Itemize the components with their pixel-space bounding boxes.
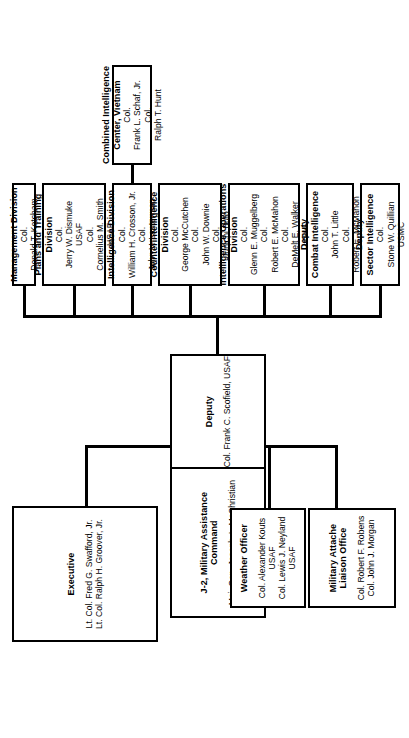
cic-title-line-1: Combined Intelligence	[101, 66, 112, 164]
cic-title-line-2: Center, Vietnam	[112, 80, 123, 149]
attache-name-1: Col. Robert F. Robens	[356, 516, 366, 601]
box-combined-intelligence-center-vietnam[interactable]: Combined IntelligenceCenter, VietnamCol.…	[112, 65, 152, 165]
deputy-sector-intelligence-title-line-1: Deputy	[354, 219, 365, 250]
intelligence-operations-division-rank-3: Col.	[280, 227, 290, 242]
attache-title-line-2: Liaison Office	[338, 528, 349, 589]
j2-deputy-name: Col. Frank C. Scofield, USAF	[222, 356, 232, 467]
counterintelligence-division-name-2: John W. Downie	[201, 203, 211, 265]
plans-and-training-division-rank-2: Col.	[85, 227, 95, 242]
executive-name-2: Lt. Col. Ralph H. Groover, Jr.	[94, 519, 104, 629]
deputy-combat-intelligence-name-1: John T. Little	[330, 210, 340, 258]
weather-name-1: Col. Alexander Kouts	[257, 518, 267, 598]
box-intelligence-division[interactable]: Intelligence DivisionCol.William H. Cros…	[112, 183, 152, 286]
intelligence-division-rank-1: Col.	[117, 227, 127, 242]
plans-and-training-division-name-1: Jerry W. Dismuke	[64, 201, 74, 268]
weather-service-2: USAF	[287, 547, 297, 570]
j2-title-line-2: Command	[209, 520, 220, 565]
connector-spine-intelops	[263, 285, 266, 318]
weather-name-2: Col. Lewis J. Neyland	[277, 517, 287, 600]
intelligence-division-title-line-1: Intelligence Division	[106, 190, 117, 279]
connector-spine-combat	[329, 285, 332, 318]
attache-name-2: Col. John J. Morgan	[366, 520, 376, 597]
box-deputy-combat-intelligence[interactable]: DeputyCombat IntelligenceCol.John T. Lit…	[306, 183, 354, 286]
intelligence-operations-division-title-line-1: Intelligence Operations	[218, 184, 229, 286]
org-chart: Executive Lt. Col. Fred G. Swafford, Jr.…	[0, 0, 409, 738]
connector-attache-horizontal	[335, 446, 338, 508]
deputy-combat-intelligence-rank-1: Col.	[320, 227, 330, 242]
weather-service-1: USAF	[267, 547, 277, 570]
management-division-title-line-1: Management Division	[9, 187, 20, 281]
intelligence-operations-division-rank-1: Col.	[239, 227, 249, 242]
deputy-combat-intelligence-title-line-2: Combat Intelligence	[310, 191, 321, 278]
intelligence-operations-division-name-1: Glenn E. Muggelberg	[249, 194, 259, 275]
counterintelligence-division-rank-1: Col.	[170, 227, 180, 242]
box-executive[interactable]: Executive Lt. Col. Fred G. Swafford, Jr.…	[12, 506, 158, 642]
chart-rotation-wrapper: Executive Lt. Col. Fred G. Swafford, Jr.…	[0, 0, 409, 738]
connector-exec-horizontal	[85, 446, 88, 506]
deputy-combat-intelligence-title-line-1: Deputy	[299, 219, 310, 250]
j2-deputy-label: Deputy	[204, 396, 215, 427]
connector-spine-management	[23, 285, 26, 318]
connector-spine-sector	[379, 285, 382, 318]
plans-and-training-division-service-1: USAF	[74, 223, 84, 246]
cic-rank-1: Col.	[122, 107, 132, 122]
box-counterintelligence-division[interactable]: CounterintelligenceDivisionCol.George Mc…	[158, 183, 222, 286]
counterintelligence-division-title-line-1: Counterintelligence	[149, 192, 160, 278]
plans-and-training-division-title-line-2: Division	[44, 217, 55, 253]
intelligence-division-rank-2: Col.	[137, 227, 147, 242]
intelligence-operations-division-rank-2: Col.	[259, 227, 269, 242]
counterintelligence-division-rank-2: Col.	[190, 227, 200, 242]
deputy-combat-intelligence-rank-2: Col.	[341, 227, 351, 242]
j2-title-line-1: J-2, Military Assistance	[199, 492, 210, 594]
intelligence-division-name-1: William H. Crosson, Jr.	[127, 191, 137, 278]
executive-name-1: Lt. Col. Fred G. Swafford, Jr.	[84, 520, 94, 629]
connector-root-to-spine	[216, 316, 219, 354]
cic-name-2: Ralph T. Hunt	[153, 89, 163, 141]
j2-deputy-compartment: Deputy Col. Frank C. Scofield, USAF	[172, 356, 264, 469]
attache-title-line-1: Military Attache	[328, 524, 339, 592]
connector-main-spine	[24, 315, 380, 318]
plans-and-training-division-title-line-1: Plans and Training	[33, 194, 44, 276]
deputy-sector-intelligence-rank-1: Col.	[375, 227, 385, 242]
deputy-sector-intelligence-name-1: Stone W. Quillian	[386, 202, 396, 268]
counterintelligence-division-name-1: George McCutchen	[180, 197, 190, 272]
deputy-sector-intelligence-service-1: USMC	[396, 222, 406, 247]
weather-title: Weather Officer	[239, 524, 250, 592]
box-weather-officer[interactable]: Weather Officer Col. Alexander Kouts USA…	[230, 508, 306, 608]
intelligence-operations-division-name-2: Robert E. McMahon	[270, 196, 280, 272]
cic-rank-2: Col.	[143, 107, 153, 122]
connector-spine-counterintel	[189, 285, 192, 318]
box-plans-and-training-division[interactable]: Plans and TrainingDivisionCol.Jerry W. D…	[42, 183, 106, 286]
connector-weather-horizontal	[268, 446, 271, 508]
executive-title: Executive	[66, 553, 77, 596]
box-intelligence-operations-division[interactable]: Intelligence OperationsDivisionCol.Glenn…	[228, 183, 300, 286]
box-military-attache-liaison-office[interactable]: Military Attache Liaison Office Col. Rob…	[308, 508, 396, 608]
connector-spine-intel	[131, 285, 134, 318]
plans-and-training-division-name-2: Cornelius M. Smith	[95, 198, 105, 271]
intelligence-operations-division-title-line-2: Division	[229, 217, 240, 253]
cic-name-1: Frank L. Schaf, Jr.	[132, 80, 142, 150]
connector-spine-plans	[73, 285, 76, 318]
management-division-rank-1: Col.	[19, 227, 29, 242]
connector-intel-to-cic	[131, 165, 134, 183]
deputy-sector-intelligence-title-line-2: Sector Intelligence	[365, 194, 376, 276]
plans-and-training-division-rank-1: Col.	[54, 227, 64, 242]
counterintelligence-division-title-line-2: Division	[160, 217, 171, 253]
box-deputy-sector-intelligence[interactable]: DeputySector IntelligenceCol.Stone W. Qu…	[360, 183, 400, 286]
